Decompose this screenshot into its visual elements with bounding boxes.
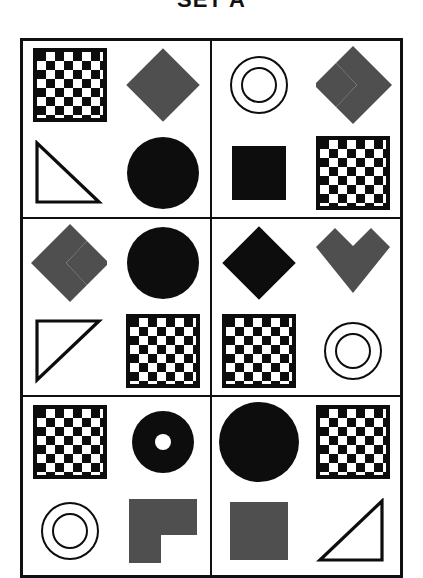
concentric-rings-icon bbox=[230, 56, 288, 114]
checkerboard-square-icon bbox=[316, 405, 390, 479]
cell-2-slot-top-left bbox=[212, 41, 306, 129]
gray-chevron-right-icon bbox=[310, 42, 396, 128]
outline-triangle-icon bbox=[33, 140, 107, 206]
concentric-rings-icon bbox=[324, 322, 382, 380]
matrix-grid bbox=[20, 38, 403, 578]
cell-4-slot-top-right bbox=[306, 219, 400, 307]
matrix-cell-1[interactable] bbox=[23, 41, 212, 219]
matrix-cell-3[interactable] bbox=[23, 219, 212, 397]
cell-5-slot-top-left bbox=[23, 397, 116, 486]
cell-6-slot-bottom-left bbox=[212, 486, 306, 575]
cell-5-slot-bottom-left bbox=[23, 486, 116, 575]
matrix-cell-2[interactable] bbox=[212, 41, 401, 219]
cell-1-slot-top-left bbox=[23, 41, 116, 129]
cell-3-slot-top-left bbox=[23, 219, 116, 307]
matrix-cell-5[interactable] bbox=[23, 397, 212, 575]
cell-6-slot-top-right bbox=[306, 397, 400, 486]
cell-6-slot-top-left bbox=[212, 397, 306, 486]
black-square-icon bbox=[232, 146, 286, 200]
cell-2-slot-bottom-right bbox=[306, 129, 400, 217]
black-circle-icon bbox=[219, 402, 299, 482]
gray-square-icon bbox=[230, 502, 288, 560]
cell-1-slot-bottom-right bbox=[116, 129, 209, 217]
black-diamond-icon bbox=[222, 226, 296, 300]
black-circle-icon bbox=[127, 227, 199, 299]
checkerboard-square-icon bbox=[33, 48, 107, 122]
cell-3-slot-top-right bbox=[116, 219, 209, 307]
cell-4-slot-bottom-left bbox=[212, 307, 306, 395]
gray-diamond-icon bbox=[126, 48, 200, 122]
matrix-cell-4[interactable] bbox=[212, 219, 401, 397]
cell-1-slot-top-right bbox=[116, 41, 209, 129]
cell-4-slot-bottom-right bbox=[306, 307, 400, 395]
cell-4-slot-top-left bbox=[212, 219, 306, 307]
concentric-rings-icon bbox=[41, 502, 99, 560]
gray-chevron-down-icon bbox=[310, 223, 396, 303]
black-donut-icon bbox=[132, 411, 194, 473]
cell-5-slot-bottom-right bbox=[116, 486, 209, 575]
cell-5-slot-top-right bbox=[116, 397, 209, 486]
gray-l-shape-icon bbox=[127, 497, 199, 565]
matrix-cell-6[interactable] bbox=[212, 397, 401, 575]
cell-3-slot-bottom-left bbox=[23, 307, 116, 395]
cell-1-slot-bottom-left bbox=[23, 129, 116, 217]
black-circle-icon bbox=[127, 137, 199, 209]
page-title: SET A bbox=[0, 0, 423, 13]
outline-triangle-icon bbox=[316, 498, 390, 564]
cell-6-slot-bottom-right bbox=[306, 486, 400, 575]
cell-2-slot-top-right bbox=[306, 41, 400, 129]
checkerboard-square-icon bbox=[316, 136, 390, 210]
cell-3-slot-bottom-right bbox=[116, 307, 209, 395]
gray-chevron-left-icon bbox=[27, 220, 113, 306]
checkerboard-square-icon bbox=[33, 405, 107, 479]
cell-2-slot-bottom-left bbox=[212, 129, 306, 217]
checkerboard-square-icon bbox=[222, 314, 296, 388]
outline-triangle-icon bbox=[33, 318, 107, 384]
checkerboard-square-icon bbox=[126, 314, 200, 388]
